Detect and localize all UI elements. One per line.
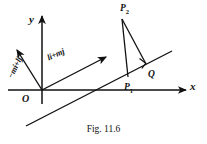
point-label-p2: P2 [120, 4, 129, 15]
figure-caption: Fig. 11.6 [0, 124, 207, 134]
y-axis-label: y [29, 14, 34, 25]
point-label-p1: P1 [124, 83, 133, 94]
normal-vector-arrow [17, 50, 42, 90]
point-p2-subscript: 2 [126, 8, 129, 15]
figure-container: y x O P2 P1 Q li+mj −mi+lj Fig. 11.6 [0, 0, 207, 144]
x-axis-label: x [190, 81, 196, 92]
point-p1-subscript: 1 [130, 87, 133, 94]
point-label-q: Q [148, 70, 155, 80]
direction-vector-arrow [42, 57, 106, 90]
origin-label: O [22, 94, 29, 104]
slanted-line [26, 51, 172, 126]
